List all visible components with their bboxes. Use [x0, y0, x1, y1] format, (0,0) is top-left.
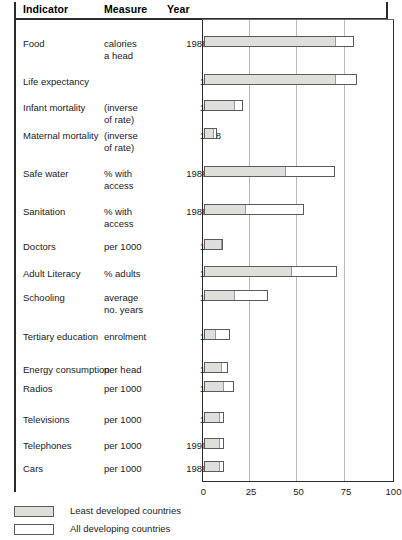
cell-indicator: Cars	[23, 463, 43, 475]
cell-measure: % with access	[104, 168, 134, 191]
x-tick-0: 0	[201, 486, 206, 497]
cell-measure: (inverse of rate)	[104, 102, 138, 125]
bar-life-expectancy	[204, 74, 358, 85]
cell-measure: % with access	[104, 206, 134, 229]
bar-tertiary-education	[204, 329, 231, 340]
legend-swatch-all-developing	[14, 524, 54, 535]
legend-swatch-least-developed	[14, 506, 54, 517]
x-tick-25: 25	[246, 486, 257, 497]
cell-indicator: Doctors	[23, 241, 56, 253]
bar-televisions	[204, 412, 225, 423]
bar-segment-least-developed	[205, 167, 287, 176]
cell-measure: enrolment	[104, 331, 146, 343]
bar-doctors	[204, 239, 223, 250]
cell-indicator: Life expectancy	[23, 76, 89, 88]
bar-segment-least-developed	[205, 330, 216, 339]
bar-segment-least-developed	[205, 382, 224, 391]
cell-indicator: Safe water	[23, 168, 68, 180]
cell-indicator: Radios	[23, 383, 53, 395]
cell-measure: per 1000	[104, 414, 142, 426]
bar-segment-least-developed	[205, 240, 222, 249]
cell-indicator: Infant mortality	[23, 102, 85, 114]
bar-food	[204, 36, 354, 47]
cell-indicator: Energy consumption	[23, 364, 110, 376]
bar-cars	[204, 461, 225, 472]
cell-indicator: Tertiary education	[23, 331, 98, 343]
cell-indicator: Maternal mortality	[23, 130, 99, 142]
bar-telephones	[204, 438, 225, 449]
bar-schooling	[204, 290, 269, 301]
cell-indicator: Food	[23, 38, 45, 50]
legend-item-least-developed: Least developed countries	[14, 503, 264, 521]
indicator-comparison-chart: Indicator Measure Year Foodcalories a he…	[0, 0, 402, 540]
bar-energy-consumption	[204, 362, 229, 373]
cell-indicator: Sanitation	[23, 206, 65, 218]
cell-measure: % adults	[104, 268, 140, 280]
legend-label-all-developing: All developing countries	[70, 523, 170, 534]
x-axis-tick-labels: 0255075100	[0, 486, 402, 500]
bar-infant-mortality	[204, 100, 244, 111]
bar-segment-least-developed	[205, 267, 292, 276]
bar-radios	[204, 381, 234, 392]
bar-maternal-mortality	[204, 128, 217, 139]
cell-measure: per 1000	[104, 463, 142, 475]
cell-indicator: Telephones	[23, 440, 72, 452]
bars-layer	[204, 19, 394, 482]
cell-indicator: Adult Literacy	[23, 268, 81, 280]
cell-measure: calories a head	[104, 38, 137, 61]
legend-label-least-developed: Least developed countries	[70, 505, 181, 516]
bar-adult-literacy	[204, 266, 337, 277]
bar-segment-least-developed	[205, 291, 235, 300]
bar-segment-least-developed	[205, 75, 336, 84]
bar-segment-least-developed	[205, 413, 220, 422]
cell-measure: per head	[104, 364, 142, 376]
legend-item-all-developing: All developing countries	[14, 521, 264, 539]
bar-segment-least-developed	[205, 363, 222, 372]
cell-measure: per 1000	[104, 241, 142, 253]
bar-segment-least-developed	[205, 439, 220, 448]
chart-legend: Least developed countries All developing…	[14, 503, 264, 539]
cell-measure: average no. years	[104, 292, 143, 315]
cell-indicator: Schooling	[23, 292, 65, 304]
x-tick-75: 75	[341, 486, 352, 497]
bar-sanitation	[204, 204, 305, 215]
bar-safe-water	[204, 166, 335, 177]
bar-segment-least-developed	[205, 129, 215, 138]
bar-segment-least-developed	[205, 101, 235, 110]
cell-indicator: Televisions	[23, 414, 69, 426]
bar-segment-least-developed	[205, 205, 247, 214]
cell-measure: (inverse of rate)	[104, 130, 138, 153]
bar-segment-least-developed	[205, 462, 220, 471]
x-tick-100: 100	[386, 486, 402, 497]
bar-segment-least-developed	[205, 37, 336, 46]
cell-measure: per 1000	[104, 383, 142, 395]
cell-measure: per 1000	[104, 440, 142, 452]
x-tick-50: 50	[293, 486, 304, 497]
